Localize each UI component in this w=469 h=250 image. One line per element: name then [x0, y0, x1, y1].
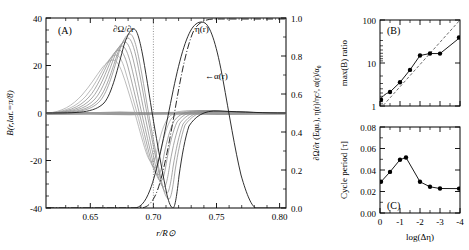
data-point: [408, 68, 412, 72]
panel-b-ytick-0: 100: [363, 16, 377, 26]
panel-a-ytick-left-1: 20: [33, 61, 43, 71]
panel-c-xtick-0: 0: [378, 217, 383, 227]
panel-c-tag: (C): [387, 200, 400, 212]
panel-a-ytick-right-4: 0.2: [291, 166, 302, 176]
data-point: [457, 186, 461, 190]
panel-c-xtick-4: -4: [456, 217, 464, 227]
panel-a-annotation-domega: ∂Ω/∂r: [113, 24, 134, 34]
panel-a-tag: (A): [58, 25, 72, 37]
panel-c-xtick-2: -2: [416, 217, 424, 227]
figure-svg: 0.65 0.70 0.75 0.80 40 20 0 -20 -40 1.0 …: [0, 0, 469, 250]
panel-c-ylabel: Cycle period [τ]: [339, 141, 349, 199]
data-point: [388, 170, 392, 174]
panel-c-ytick-4: 0.00: [360, 209, 376, 219]
panel-a-ylabel-left: B(r,lat.=π/8): [5, 90, 15, 136]
panel-a-ytick-left-3: -20: [30, 156, 42, 166]
data-point: [379, 98, 383, 102]
panel-a-ytick-right-2: 0.6: [291, 90, 303, 100]
panel-a-ytick-right-0: 1.0: [291, 14, 303, 24]
panel-c-xtick-1: -1: [396, 217, 404, 227]
panel-b-ytick-2: 1: [372, 102, 377, 112]
panel-c-xlabel: log(Δη): [406, 232, 434, 242]
figure-container: 0.65 0.70 0.75 0.80 40 20 0 -20 -40 1.0 …: [0, 0, 469, 250]
data-point: [418, 53, 422, 57]
panel-b-ylabel: max(B) ratio: [339, 39, 349, 86]
panel-c-ytick-1: 0.06: [360, 144, 376, 154]
panel-a: 0.65 0.70 0.75 0.80 40 20 0 -20 -40 1.0 …: [5, 14, 321, 239]
domega-dr-family: [47, 34, 285, 199]
panel-a-annotation-alpha: ←α(r): [205, 71, 228, 81]
panel-a-xlabel: r/R⊙: [156, 228, 176, 238]
data-point: [418, 180, 422, 184]
panel-c-data-points: [379, 155, 461, 191]
panel-a-ytick-right-1: 0.8: [291, 52, 303, 62]
domega-dr-main-curve: [47, 29, 173, 208]
panel-c-ytick-0: 0.08: [360, 123, 376, 133]
data-point: [457, 35, 461, 39]
data-point: [398, 158, 402, 162]
panel-b-data-line: [380, 38, 460, 100]
data-point: [438, 186, 442, 190]
data-point: [428, 185, 432, 189]
panel-a-ytick-right-3: 0.4: [291, 128, 303, 138]
panel-a-xtick-1: 0.70: [146, 212, 162, 222]
data-point: [379, 180, 383, 184]
panel-a-xtick-0: 0.65: [82, 212, 98, 222]
panel-a-ytick-left-4: -40: [30, 204, 42, 214]
panel-a-ytick-left-2: 0: [38, 109, 43, 119]
data-point: [398, 80, 402, 84]
alpha-curve: [47, 22, 285, 208]
panel-c-xtick-3: -3: [436, 217, 444, 227]
panel-c: 0.08 0.06 0.04 0.02 0.00 0 -1 -2 -3 -4 l…: [339, 123, 464, 243]
panel-a-ylabel-right: ∂Ω/∂r (Equ.), η(r)/ηᴄᶻ, α(r)/α₀: [312, 65, 321, 160]
data-point: [404, 155, 408, 159]
panel-a-ytick-left-0: 40: [33, 14, 43, 24]
panel-b-ytick-1: 10: [367, 59, 377, 69]
domega-dr-main-curve-tail: [173, 111, 285, 208]
panel-a-xtick-2: 0.75: [209, 212, 225, 222]
panel-a-xtick-3: 0.80: [272, 212, 288, 222]
data-point: [428, 51, 432, 55]
panel-b-tag: (B): [387, 25, 400, 37]
panel-a-ytick-right-5: 0.0: [291, 204, 303, 214]
panel-c-ytick-3: 0.02: [360, 187, 376, 197]
panel-b-data-points: [379, 35, 461, 102]
data-point: [438, 51, 442, 55]
b-field-band-2: [47, 113, 285, 114]
panel-b: 100 10 1 max(B) ratio (B): [339, 16, 461, 112]
data-point: [388, 90, 392, 94]
panel-c-ytick-2: 0.04: [360, 166, 376, 176]
